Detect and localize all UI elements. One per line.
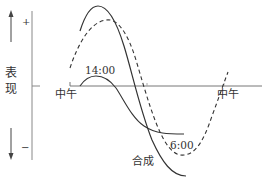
composite-label: 合成 [132,156,154,168]
y-axis-label-char-2: 现 [5,83,17,95]
peak-time-label: 14:00 [85,64,115,76]
y-axis-negative-sign: − [21,142,29,154]
y-axis-positive-sign: + [22,16,30,28]
trough-time-label: 6:00 [170,139,194,151]
up-arrow-icon [9,10,14,42]
down-arrow-icon [9,128,14,160]
x-axis-end-label: 中午 [217,89,239,101]
x-axis-start-label: 中午 [55,89,77,101]
y-axis-label-char-1: 表 [5,67,17,79]
small-rhythm-curve [80,76,184,134]
circadian-dashed-curve [70,20,228,155]
